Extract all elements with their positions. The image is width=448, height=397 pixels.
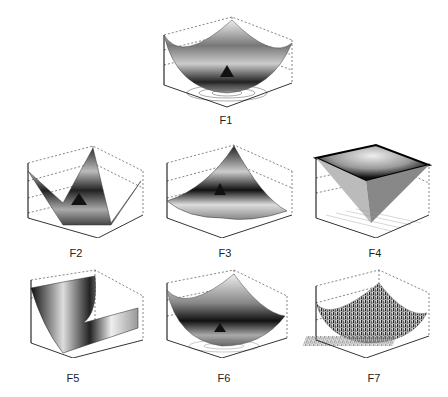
plot-f6 bbox=[152, 268, 297, 358]
surface-plot-f5 bbox=[3, 268, 148, 358]
plot-f3 bbox=[152, 143, 297, 238]
panel-label-f7: F7 bbox=[354, 372, 394, 384]
surface-plot-f3 bbox=[152, 143, 297, 238]
panel-label-f1: F1 bbox=[206, 114, 246, 126]
surface-plot-f2 bbox=[3, 143, 148, 238]
surface-plot-f7 bbox=[301, 268, 446, 358]
panel-label-f2: F2 bbox=[56, 247, 96, 259]
plot-f1 bbox=[152, 5, 302, 110]
plot-f4 bbox=[301, 143, 446, 238]
panel-label-f4: F4 bbox=[355, 247, 395, 259]
surface-plot-f4 bbox=[301, 143, 446, 238]
surface-plot-f6 bbox=[152, 268, 297, 358]
plot-f2 bbox=[3, 143, 148, 238]
plot-f5 bbox=[3, 268, 148, 358]
panel-label-f5: F5 bbox=[53, 372, 93, 384]
panel-label-f3: F3 bbox=[205, 247, 245, 259]
figure-caption bbox=[90, 387, 290, 395]
plot-f7 bbox=[301, 268, 446, 358]
surface-plot-f1 bbox=[152, 5, 302, 110]
panel-label-f6: F6 bbox=[204, 372, 244, 384]
